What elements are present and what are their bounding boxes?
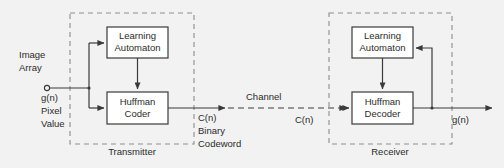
transmitter-group-label: Transmitter	[108, 146, 156, 157]
diagram-canvas: Transmitter Learning Automaton Huffman C…	[0, 0, 504, 168]
image-array-label-line1: Image	[19, 49, 45, 60]
input-signal-label: g(n)	[41, 92, 58, 103]
channel-label: Channel	[246, 91, 281, 102]
input-desc-label-line2: Value	[41, 118, 65, 129]
tx-output-desc-label-line1: Binary	[198, 125, 225, 136]
tx-huffman-coder-label-line1: Huffman	[120, 96, 156, 107]
channel-signal-label: C(n)	[295, 114, 313, 125]
input-junction-dot	[87, 86, 90, 89]
image-array-label-line2: Array	[19, 62, 42, 73]
receiver-group-label: Receiver	[371, 146, 409, 157]
rx-learning-automaton-label-line1: Learning	[364, 30, 401, 41]
rx-huffman-decoder-label-line1: Huffman	[365, 96, 401, 107]
tx-output-desc-label-line2: Codeword	[198, 138, 241, 149]
input-desc-label-line1: Pixel	[41, 105, 62, 116]
rx-feedback-junction-dot	[430, 106, 433, 109]
tx-learning-automaton-label-line1: Learning	[119, 30, 156, 41]
rx-output-signal-label: g(n)	[452, 114, 469, 125]
image-array-input-node	[44, 85, 49, 90]
tx-huffman-coder-label-line2: Coder	[125, 108, 151, 119]
rx-learning-automaton-label-line2: Automaton	[360, 42, 406, 53]
rx-huffman-decoder-label-line2: Decoder	[365, 108, 401, 119]
tx-learning-automaton-label-line2: Automaton	[115, 42, 161, 53]
block-diagram: Transmitter Learning Automaton Huffman C…	[0, 0, 504, 168]
wire-rx-feedback-to-automaton	[416, 48, 432, 108]
tx-output-signal-label: C(n)	[198, 112, 216, 123]
